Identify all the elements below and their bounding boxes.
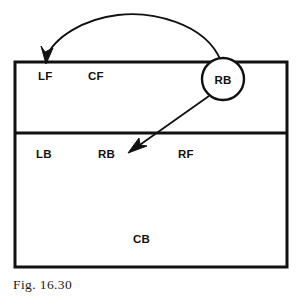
figure-caption: Fig. 16.30 xyxy=(13,277,72,293)
position-label-lb: LB xyxy=(36,148,52,160)
player-marker-label: RB xyxy=(214,74,231,86)
curved-movement-arrow-path xyxy=(46,14,221,61)
position-label-rf: RF xyxy=(178,148,194,160)
position-label-cb: CB xyxy=(133,233,150,245)
field-outer-rectangle xyxy=(15,62,287,267)
position-label-cf: CF xyxy=(88,70,104,82)
position-label-lf: LF xyxy=(38,70,53,82)
figure-container: RB LF CF LB RB RF CB Fig. 16.30 xyxy=(0,0,304,307)
position-label-rb: RB xyxy=(98,148,115,160)
formation-diagram: RB LF CF LB RB RF CB xyxy=(0,0,304,307)
